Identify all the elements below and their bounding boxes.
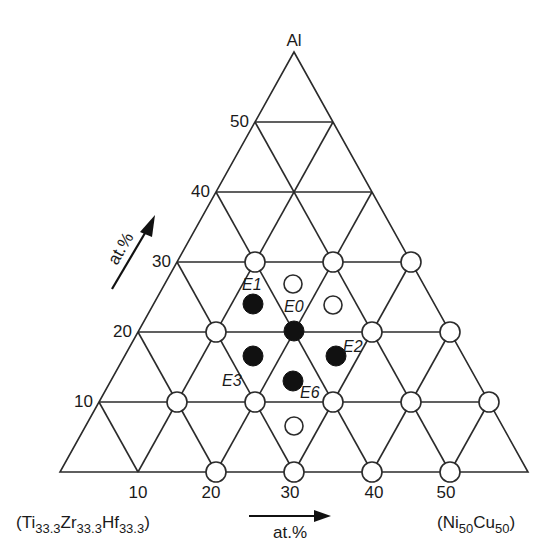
corner-label-tizrhf: (Ti33.3Zr33.3Hf33.3) — [16, 513, 150, 536]
open-point — [440, 462, 460, 482]
bottom-axis-unit: at.% — [273, 523, 307, 542]
ternary-diagram: E1 E0 E2 E3 E6 Al 10 20 30 40 50 at.% 10… — [0, 0, 560, 550]
open-point — [323, 392, 343, 412]
open-point — [362, 462, 382, 482]
arrow-right-icon — [314, 510, 331, 522]
open-point — [245, 392, 265, 412]
open-point — [440, 322, 460, 342]
svg-text:10: 10 — [74, 392, 93, 411]
svg-text:10: 10 — [129, 483, 148, 502]
right-parallel-gridlines — [138, 122, 489, 472]
open-point — [206, 322, 226, 342]
open-point — [284, 462, 304, 482]
svg-text:20: 20 — [113, 322, 132, 341]
open-points — [167, 252, 499, 482]
left-parallel-gridlines — [99, 122, 450, 472]
open-point — [284, 275, 302, 293]
open-point — [324, 296, 342, 314]
open-point — [285, 417, 303, 435]
svg-text:30: 30 — [281, 483, 300, 502]
svg-text:50: 50 — [437, 483, 456, 502]
svg-text:40: 40 — [365, 483, 384, 502]
svg-text:20: 20 — [202, 483, 221, 502]
left-axis-arrow: at.% — [104, 215, 155, 289]
label-E0: E0 — [284, 298, 304, 315]
open-point — [245, 252, 265, 272]
svg-text:30: 30 — [152, 252, 171, 271]
point-E0 — [284, 321, 304, 341]
bottom-axis-arrow: at.% — [249, 510, 331, 542]
svg-text:40: 40 — [191, 182, 210, 201]
open-point — [323, 252, 343, 272]
open-point — [401, 252, 421, 272]
arrow-up-icon — [140, 215, 155, 237]
open-point — [362, 322, 382, 342]
left-axis-unit: at.% — [104, 229, 137, 268]
svg-text:50: 50 — [230, 112, 249, 131]
label-E3: E3 — [222, 372, 242, 389]
open-point — [206, 462, 226, 482]
point-E1 — [243, 294, 263, 314]
label-E2: E2 — [343, 338, 363, 355]
bottom-axis-ticks: 10 20 30 40 50 — [129, 483, 456, 502]
corner-label-nicu: (Ni50Cu50) — [437, 513, 515, 536]
open-point — [401, 392, 421, 412]
open-point — [479, 392, 499, 412]
open-point — [167, 392, 187, 412]
point-E3 — [243, 346, 263, 366]
label-E6: E6 — [300, 384, 320, 401]
label-E1: E1 — [242, 276, 262, 293]
apex-label-al: Al — [286, 31, 301, 50]
